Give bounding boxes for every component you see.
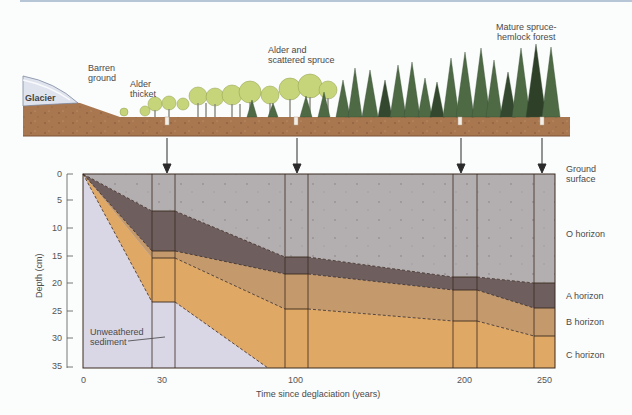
x-axis-title: Time since deglaciation (years) <box>256 389 380 399</box>
y-tick: 35 <box>42 361 62 371</box>
label-a-horizon: A horizon <box>566 291 604 301</box>
label-line: surface <box>566 174 596 184</box>
y-tick: 20 <box>42 278 62 288</box>
label-alder-scattered-spruce: Alder and scattered spruce <box>268 45 335 65</box>
label-line: Mature spruce- <box>496 22 557 32</box>
label-line: Ground <box>566 164 596 174</box>
label-line: thicket <box>130 89 156 99</box>
x-tick: 100 <box>288 375 303 385</box>
y-tick: 15 <box>42 251 62 261</box>
label-line: Alder <box>130 79 156 89</box>
y-tick: 0 <box>42 169 62 179</box>
label-c-horizon: C horizon <box>566 350 605 360</box>
label-unweathered-sediment: Unweathered sediment <box>90 327 144 347</box>
label-line: ground <box>88 73 116 83</box>
y-axis-title: Depth (cm) <box>34 253 44 298</box>
label-b-horizon: B horizon <box>566 317 604 327</box>
label-line: Unweathered <box>90 327 144 337</box>
label-mature-forest: Mature spruce- hemlock forest <box>496 22 557 42</box>
label-alder-thicket: Alder thicket <box>130 79 156 99</box>
x-tick: 200 <box>457 375 472 385</box>
label-line: sediment <box>90 337 144 347</box>
y-axis <box>67 174 73 368</box>
x-tick: 0 <box>81 375 86 385</box>
label-glacier: Glacier <box>25 93 56 103</box>
y-tick: 10 <box>42 223 62 233</box>
pit-arrows <box>163 138 546 173</box>
label-barren-ground: Barren ground <box>88 63 116 83</box>
label-o-horizon: O horizon <box>566 229 605 239</box>
soil-profile-chart <box>83 174 555 368</box>
label-line: Alder and <box>268 45 335 55</box>
y-tick: 25 <box>42 306 62 316</box>
label-line: scattered spruce <box>268 55 335 65</box>
label-line: Barren <box>88 63 116 73</box>
label-line: hemlock forest <box>496 32 557 42</box>
y-tick: 5 <box>42 195 62 205</box>
x-tick: 30 <box>157 375 167 385</box>
y-tick: 30 <box>42 333 62 343</box>
label-ground-surface: Ground surface <box>566 164 596 184</box>
x-tick: 250 <box>537 375 552 385</box>
